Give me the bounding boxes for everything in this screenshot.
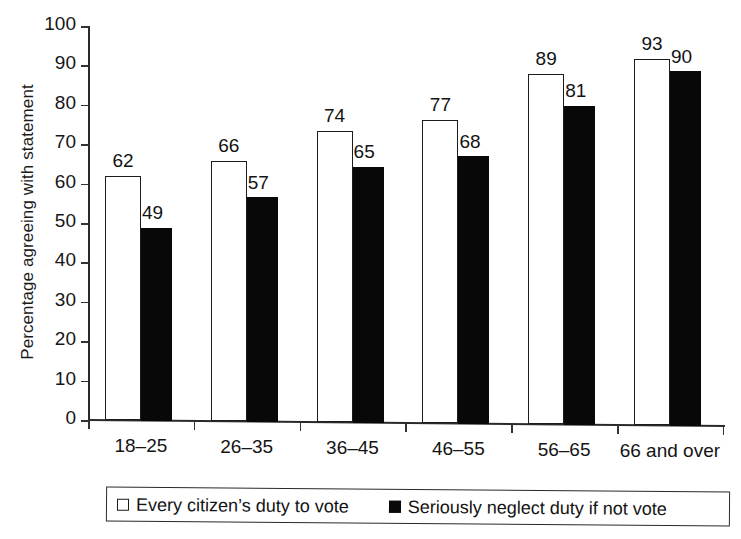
bar-every-citizens-duty (317, 131, 353, 423)
y-axis-tick-label: 0 (30, 407, 76, 429)
bar-every-citizens-duty (105, 176, 141, 420)
y-axis-tick-label: 80 (30, 92, 76, 114)
y-axis-tick (81, 223, 89, 225)
y-axis-tick-label: 100 (30, 13, 76, 35)
x-axis-tick (300, 422, 302, 431)
x-axis-category-label: 18–25 (114, 435, 167, 457)
bar-value-label: 81 (565, 80, 586, 102)
bar-seriously-neglect-duty (458, 156, 489, 424)
bar-every-citizens-duty (634, 59, 670, 425)
y-axis-tick (81, 381, 89, 383)
x-axis-tick (723, 426, 725, 435)
y-axis-tick-label: 10 (30, 368, 76, 390)
x-axis-tick (405, 423, 407, 432)
x-axis-category-label: 26–35 (220, 436, 273, 458)
chart-legend: Every citizen’s duty to vote Seriously n… (106, 487, 730, 527)
y-axis-tick (81, 341, 89, 343)
y-axis-tick (81, 65, 89, 67)
bar-every-citizens-duty (422, 120, 458, 423)
y-axis-tick-label: 50 (30, 210, 76, 232)
y-axis-tick (81, 105, 89, 107)
bar-seriously-neglect-duty (141, 228, 172, 421)
y-axis-tick-label: 70 (30, 131, 76, 153)
x-axis-category-label: 46–55 (432, 438, 485, 460)
bar-value-label: 66 (218, 135, 239, 157)
bar-value-label: 89 (536, 48, 557, 70)
y-axis-tick-label: 90 (30, 52, 76, 74)
plot-area: 0102030405060708090100 62496657746577688… (88, 26, 728, 420)
legend-label-seriously-neglect-duty: Seriously neglect duty if not vote (408, 496, 667, 519)
bar-every-citizens-duty (211, 161, 247, 421)
bar-value-label: 93 (641, 33, 662, 55)
y-axis-tick (81, 144, 89, 146)
bar-seriously-neglect-duty (564, 106, 595, 425)
x-axis-tick (511, 424, 513, 433)
bar-value-label: 74 (324, 105, 345, 127)
bar-seriously-neglect-duty (247, 197, 278, 422)
y-axis-tick-label: 60 (30, 171, 76, 193)
legend-item-seriously-neglect-duty: Seriously neglect duty if not vote (389, 496, 667, 519)
y-axis-tick-label: 40 (30, 249, 76, 271)
bar-value-label: 65 (354, 141, 375, 163)
x-axis-tick (88, 420, 90, 429)
x-axis-tick (617, 425, 619, 434)
x-axis-category-label: 36–45 (326, 437, 379, 459)
y-axis-tick-label: 30 (30, 289, 76, 311)
y-axis-tick-label: 20 (30, 328, 76, 350)
y-axis-tick (81, 262, 89, 264)
bar-value-label: 49 (142, 202, 163, 224)
bar-seriously-neglect-duty (670, 71, 701, 426)
x-axis-category-label: 56–65 (538, 439, 591, 461)
filled-square-icon (389, 501, 401, 513)
y-axis-tick (81, 184, 89, 186)
bar-value-label: 68 (459, 131, 480, 153)
y-axis-tick (81, 26, 89, 28)
open-square-icon (117, 499, 129, 511)
bar-value-label: 90 (671, 46, 692, 68)
x-axis-category-label: 66 and over (620, 440, 720, 462)
bar-value-label: 77 (430, 94, 451, 116)
bar-value-label: 57 (248, 172, 269, 194)
y-axis-tick (81, 302, 89, 304)
bar-seriously-neglect-duty (353, 167, 384, 423)
legend-item-every-citizens-duty: Every citizen’s duty to vote (117, 494, 349, 517)
bar-chart-figure: Percentage agreeing with statement 01020… (0, 0, 741, 539)
bar-every-citizens-duty (528, 74, 564, 425)
bar-value-label: 62 (112, 150, 133, 172)
legend-label-every-citizens-duty: Every citizen’s duty to vote (136, 494, 349, 517)
x-axis-tick (194, 421, 196, 430)
